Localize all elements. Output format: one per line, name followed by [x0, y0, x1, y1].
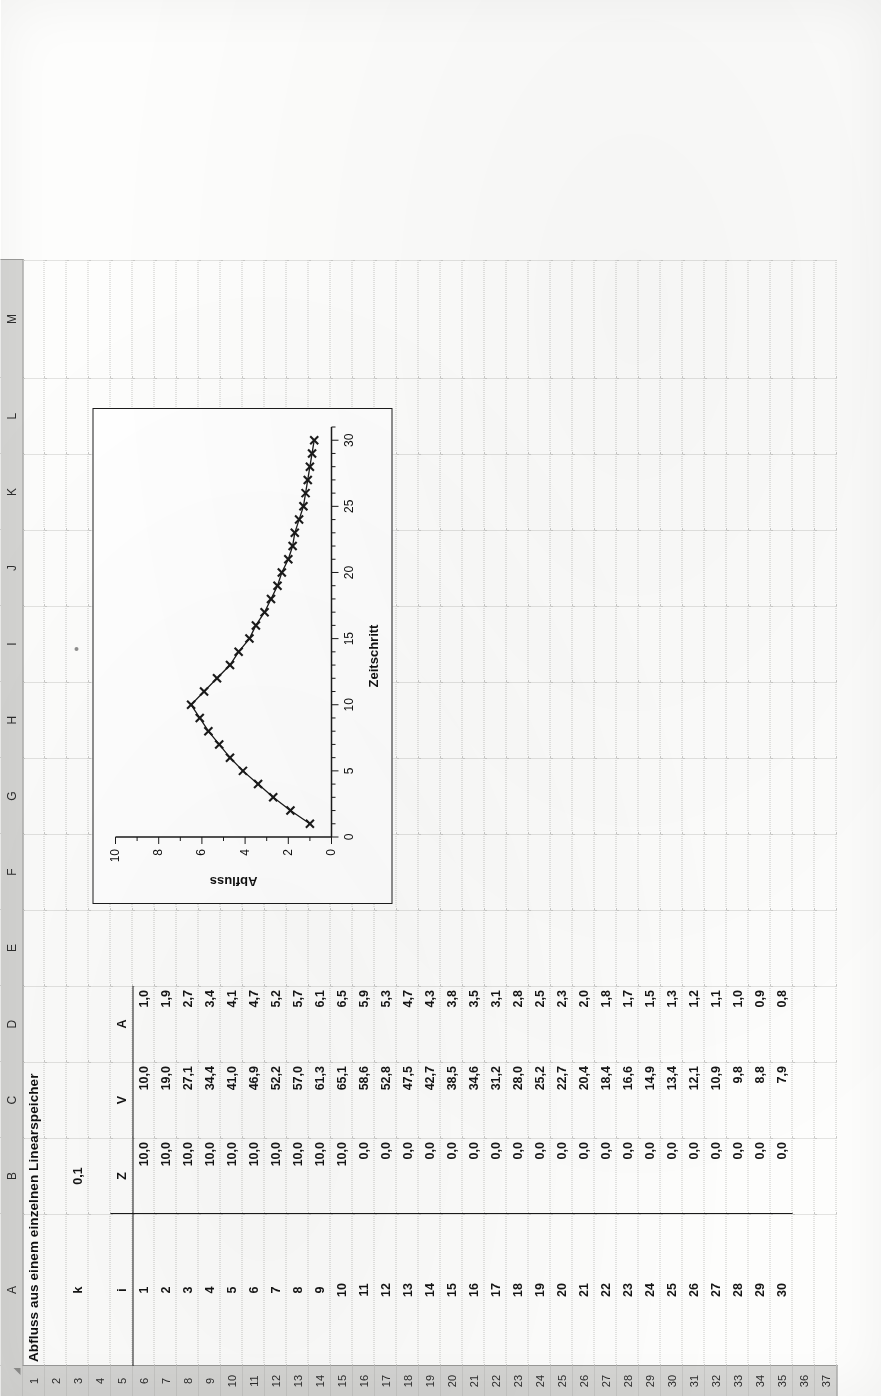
table-row[interactable]: 10,0 [198, 1138, 220, 1214]
column-header-b[interactable]: B [0, 1137, 23, 1214]
cell-F30[interactable] [660, 834, 682, 910]
cell-L3[interactable] [66, 378, 88, 454]
cell-F35[interactable] [770, 834, 792, 910]
row-header-33[interactable]: 33 [726, 1365, 749, 1396]
table-row[interactable]: 4,1 [220, 986, 242, 1062]
cell-L33[interactable] [726, 378, 748, 454]
cell-E18[interactable] [396, 910, 418, 986]
cell-G32[interactable] [704, 758, 726, 834]
cell-J18[interactable] [396, 530, 418, 606]
cell-H36[interactable] [792, 682, 814, 758]
cell-H20[interactable] [440, 682, 462, 758]
cell-M15[interactable] [330, 260, 352, 378]
cell-M3[interactable] [66, 260, 88, 378]
row-header-12[interactable]: 12 [264, 1365, 287, 1396]
cell-F1[interactable] [22, 834, 44, 910]
cell-M22[interactable] [484, 260, 506, 378]
table-row[interactable]: 12 [374, 1214, 396, 1366]
table-row[interactable]: 22,7 [550, 1062, 572, 1138]
table-row[interactable]: 14 [418, 1214, 440, 1366]
cell-G1[interactable] [22, 758, 44, 834]
table-row[interactable]: 11 [352, 1214, 374, 1366]
table-row[interactable]: 0,0 [770, 1138, 792, 1214]
embedded-chart[interactable]: Zeitschritt Abfluss 0510152025300246810 [92, 408, 392, 904]
cell-L37[interactable] [814, 378, 836, 454]
row-header-7[interactable]: 7 [154, 1365, 177, 1396]
table-row[interactable]: 16 [462, 1214, 484, 1366]
table-row[interactable]: 34,4 [198, 1062, 220, 1138]
table-row[interactable]: 29 [748, 1214, 770, 1366]
cell-E5[interactable] [110, 910, 132, 986]
cell-G33[interactable] [726, 758, 748, 834]
cell-K22[interactable] [484, 454, 506, 530]
cell-E4[interactable] [88, 910, 110, 986]
cell-K37[interactable] [814, 454, 836, 530]
cell-E29[interactable] [638, 910, 660, 986]
table-row[interactable]: 0,0 [374, 1138, 396, 1214]
row-header-2[interactable]: 2 [44, 1365, 67, 1396]
row-header-19[interactable]: 19 [418, 1365, 441, 1396]
cell-M19[interactable] [418, 260, 440, 378]
cell-M18[interactable] [396, 260, 418, 378]
table-row[interactable]: 0,0 [506, 1138, 528, 1214]
cell-E27[interactable] [594, 910, 616, 986]
cell-K1[interactable] [22, 454, 44, 530]
cell-E14[interactable] [308, 910, 330, 986]
cell-E16[interactable] [352, 910, 374, 986]
table-row[interactable]: 18,4 [594, 1062, 616, 1138]
column-header-j[interactable]: J [0, 529, 23, 606]
cell-M27[interactable] [594, 260, 616, 378]
cell-K25[interactable] [550, 454, 572, 530]
cell-J22[interactable] [484, 530, 506, 606]
table-row[interactable]: 2,0 [572, 986, 594, 1062]
row-header-17[interactable]: 17 [374, 1365, 397, 1396]
cell-E11[interactable] [242, 910, 264, 986]
table-row[interactable]: 27 [704, 1214, 726, 1366]
cell-J2[interactable] [44, 530, 66, 606]
cell-J36[interactable] [792, 530, 814, 606]
table-row[interactable]: 17 [484, 1214, 506, 1366]
cell-L28[interactable] [616, 378, 638, 454]
row-header-26[interactable]: 26 [572, 1365, 595, 1396]
table-row[interactable]: 25 [660, 1214, 682, 1366]
cell-B2[interactable] [44, 1138, 66, 1214]
cell-D2[interactable] [44, 986, 66, 1062]
cell-E10[interactable] [220, 910, 242, 986]
table-header-z[interactable]: Z [110, 1138, 132, 1214]
table-row[interactable]: 25,2 [528, 1062, 550, 1138]
table-row[interactable]: 19 [528, 1214, 550, 1366]
cell-G36[interactable] [792, 758, 814, 834]
table-row[interactable]: 13 [396, 1214, 418, 1366]
cell-E9[interactable] [198, 910, 220, 986]
table-row[interactable]: 0,0 [704, 1138, 726, 1214]
cell-E1[interactable] [22, 910, 44, 986]
table-row[interactable]: 0,9 [748, 986, 770, 1062]
column-header-c[interactable]: C [0, 1061, 23, 1138]
cell-D36[interactable] [792, 986, 814, 1062]
cell-I27[interactable] [594, 606, 616, 682]
table-row[interactable]: 65,1 [330, 1062, 352, 1138]
cell-E13[interactable] [286, 910, 308, 986]
cell-I28[interactable] [616, 606, 638, 682]
cell-G20[interactable] [440, 758, 462, 834]
table-row[interactable]: 0,0 [726, 1138, 748, 1214]
cell-M21[interactable] [462, 260, 484, 378]
row-header-30[interactable]: 30 [660, 1365, 683, 1396]
cell-L23[interactable] [506, 378, 528, 454]
table-row[interactable]: 20,4 [572, 1062, 594, 1138]
cell-M7[interactable] [154, 260, 176, 378]
row-header-10[interactable]: 10 [220, 1365, 243, 1396]
column-header-i[interactable]: I [0, 605, 23, 682]
row-header-24[interactable]: 24 [528, 1365, 551, 1396]
row-header-9[interactable]: 9 [198, 1365, 221, 1396]
cell-G23[interactable] [506, 758, 528, 834]
row-header-16[interactable]: 16 [352, 1365, 375, 1396]
cell-I2[interactable] [44, 606, 66, 682]
cell-G34[interactable] [748, 758, 770, 834]
table-header-i[interactable]: i [110, 1214, 132, 1366]
row-header-25[interactable]: 25 [550, 1365, 573, 1396]
cell-G26[interactable] [572, 758, 594, 834]
cell-J28[interactable] [616, 530, 638, 606]
row-header-5[interactable]: 5 [110, 1365, 133, 1396]
cell-A4[interactable] [88, 1214, 110, 1366]
